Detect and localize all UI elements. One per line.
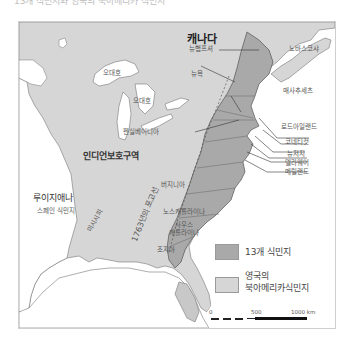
label-connecticut: 코네티컷 xyxy=(285,139,309,146)
label-indian-reserve: 인디언보호구역 xyxy=(83,152,139,161)
map-frame: 캐나다 오대호 오대호 뉴햄프셔 뉴욕 노바스코샤 매사추세츠 로드아일랜드 코… xyxy=(18,21,336,329)
label-pennsylvania: 펜실베이니아 xyxy=(123,129,159,136)
label-louisiana-spanish: 스페인 식민지 xyxy=(37,208,75,215)
label-lake-superior: 오대호 xyxy=(103,70,121,77)
legend-swatch-british xyxy=(215,277,239,293)
legend-swatch-13-colonies xyxy=(215,244,239,260)
label-new-hampshire: 뉴햄프셔 xyxy=(189,46,213,53)
label-nova-scotia: 노바스코샤 xyxy=(289,46,319,53)
label-south-carolina: 사우스 캐롤라이나 xyxy=(169,221,199,237)
legend-label-british-1: 영국의 xyxy=(245,270,269,282)
label-louisiana: 루이지애나 xyxy=(33,194,73,203)
label-north-carolina: 노스캐롤라이나 xyxy=(163,209,205,216)
scale-tick-1000: 1000 km xyxy=(291,309,315,315)
scale-tick-0: 0 xyxy=(209,309,213,315)
legend-label-british-2: 북아메리카식민지 xyxy=(245,282,309,294)
label-new-york: 뉴욕 xyxy=(191,71,203,78)
label-maryland: 메릴랜드 xyxy=(285,169,309,176)
label-delaware: 델라웨어 xyxy=(285,160,309,167)
label-massachusetts: 매사추세츠 xyxy=(283,88,313,95)
legend-label-13-colonies: 13개 식민지 xyxy=(245,246,291,258)
label-virginia: 버지니아 xyxy=(161,182,185,189)
map-caption: 13개 식민지와 영국의 북아메리카 식민지 xyxy=(14,0,165,7)
label-georgia: 조지아 xyxy=(157,247,175,254)
label-lake-michigan: 오대호 xyxy=(133,98,151,105)
label-new-jersey: 뉴저지 xyxy=(287,151,305,158)
scale-tick-500: 500 xyxy=(251,309,262,315)
label-rhode-island: 로드아일랜드 xyxy=(281,124,317,131)
scale-bar xyxy=(211,316,311,322)
label-canada: 캐나다 xyxy=(187,34,217,45)
